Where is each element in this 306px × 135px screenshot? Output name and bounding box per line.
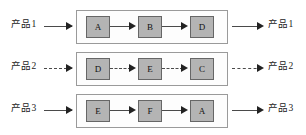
process-step-box[interactable]: C: [190, 58, 214, 80]
output-arrowhead-icon: [257, 64, 264, 72]
output-arrowhead-icon: [257, 22, 264, 30]
row-output-label: 产品2: [268, 62, 293, 72]
step-connector-line: [162, 68, 183, 69]
row-output-label: 产品3: [268, 104, 293, 114]
step-connector-line: [162, 110, 183, 111]
process-step-box[interactable]: A: [86, 16, 110, 38]
flow-row: 产品2 D E C 产品2: [0, 50, 306, 88]
output-arrowhead-icon: [257, 106, 264, 114]
process-step-box[interactable]: D: [86, 58, 110, 80]
step-connector-line: [110, 110, 131, 111]
input-arrowhead-icon: [66, 106, 73, 114]
process-step-box[interactable]: E: [138, 58, 162, 80]
step-arrowhead-icon: [129, 64, 136, 72]
step-connector-line: [110, 26, 131, 27]
step-arrowhead-icon: [181, 22, 188, 30]
step-arrowhead-icon: [181, 64, 188, 72]
process-step-box[interactable]: D: [190, 16, 214, 38]
process-step-box[interactable]: A: [190, 100, 214, 122]
process-step-box[interactable]: F: [138, 100, 162, 122]
row-input-label: 产品2: [11, 62, 36, 72]
process-step-box[interactable]: B: [138, 16, 162, 38]
step-arrowhead-icon: [129, 22, 136, 30]
row-input-label: 产品1: [11, 20, 36, 30]
step-connector-line: [162, 26, 183, 27]
input-arrowhead-icon: [66, 64, 73, 72]
flow-row: 产品3 E F A 产品3: [0, 92, 306, 130]
process-step-box[interactable]: E: [86, 100, 110, 122]
flow-row: 产品1 A B D 产品1: [0, 8, 306, 46]
input-arrowhead-icon: [66, 22, 73, 30]
step-arrowhead-icon: [181, 106, 188, 114]
process-flow-diagram: 产品1 A B D 产品1 产品2 D E C 产品2 产品3: [0, 0, 306, 135]
row-input-label: 产品3: [11, 104, 36, 114]
step-connector-line: [110, 68, 131, 69]
step-arrowhead-icon: [129, 106, 136, 114]
row-output-label: 产品1: [268, 20, 293, 30]
